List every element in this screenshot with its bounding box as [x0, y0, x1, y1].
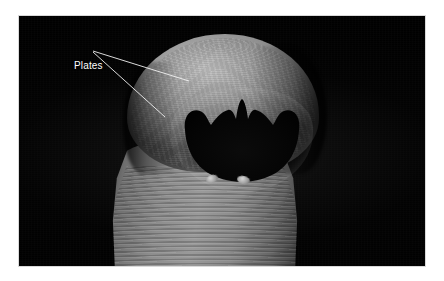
buccal-capsule — [179, 94, 305, 182]
sem-micrograph-photo — [19, 16, 425, 266]
annotation-label-plates: Plates — [74, 60, 103, 72]
figure-page: Plates — [0, 0, 444, 281]
buccal-cavity-shape — [185, 99, 300, 182]
